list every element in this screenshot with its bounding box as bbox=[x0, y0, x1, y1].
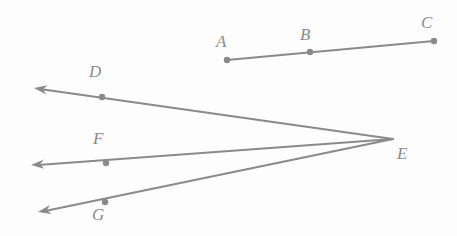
point-label-g: G bbox=[92, 206, 104, 223]
rays-group bbox=[38, 89, 393, 211]
point-label-f: F bbox=[93, 130, 103, 147]
point-label-b: B bbox=[300, 26, 310, 43]
geometry-canvas bbox=[0, 0, 457, 236]
point-label-d: D bbox=[89, 63, 101, 80]
geometry-figure: A B C D E F G bbox=[0, 0, 457, 236]
segment-ac bbox=[227, 41, 434, 60]
ray-ef bbox=[38, 139, 393, 165]
ray-eg bbox=[45, 139, 393, 211]
point-label-c: C bbox=[421, 14, 432, 31]
point-label-e: E bbox=[397, 145, 407, 162]
point-dot-a bbox=[224, 57, 230, 63]
point-dot-b bbox=[307, 49, 313, 55]
point-dot-d bbox=[99, 94, 105, 100]
point-dot-c bbox=[431, 38, 437, 44]
point-dot-f bbox=[103, 160, 109, 166]
arrowheads-group bbox=[31, 85, 52, 214]
point-label-a: A bbox=[216, 33, 226, 50]
segments-group bbox=[227, 41, 434, 60]
